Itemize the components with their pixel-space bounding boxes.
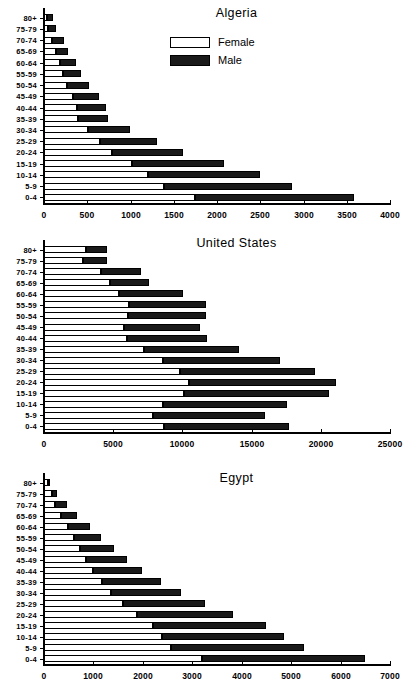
bar-female <box>44 37 52 44</box>
age-group-label: 10-14 <box>16 400 37 409</box>
bar-female <box>44 567 93 574</box>
bar-male <box>184 390 329 397</box>
bar-female <box>44 171 148 178</box>
bar-male <box>153 412 265 419</box>
bar-male <box>56 48 68 55</box>
age-group-label: 75-79 <box>16 490 37 499</box>
bar-female <box>44 115 78 122</box>
bar-female <box>44 279 110 286</box>
legend-item-male: Male <box>170 54 242 66</box>
bar-female <box>44 390 184 397</box>
plot-area-united-states: 050001000015000200002500080+75-7970-7465… <box>0 230 413 465</box>
bar-male <box>52 37 64 44</box>
x-axis-tick-label: 1000 <box>83 671 103 681</box>
age-group-label: 20-24 <box>16 611 37 620</box>
age-group-label: 30-34 <box>16 356 37 365</box>
age-group-label: 25-29 <box>16 600 37 609</box>
x-axis-tick-label: 10000 <box>170 439 195 449</box>
legend-label-female: Female <box>218 36 255 48</box>
bar-female <box>44 589 111 596</box>
bar-male <box>86 556 127 563</box>
age-group-label: 60-64 <box>16 523 37 532</box>
x-axis-tick-label: 4000 <box>380 210 400 220</box>
bar-female <box>44 490 52 497</box>
x-axis-tick-label: 1500 <box>164 210 184 220</box>
age-group-label: 0-4 <box>25 193 37 202</box>
x-axis-tick-label: 5000 <box>281 671 301 681</box>
bar-female <box>44 357 163 364</box>
age-group-label: 30-34 <box>16 126 37 135</box>
x-axis-tick-label: 1000 <box>121 210 141 220</box>
bar-female <box>44 600 123 607</box>
bar-female <box>44 301 129 308</box>
age-group-label: 60-64 <box>16 59 37 68</box>
age-group-label: 45-49 <box>16 323 37 332</box>
bar-female <box>44 93 73 100</box>
bar-male <box>163 401 287 408</box>
chart-panel-egypt: Egypt 0100020003000400050006000700080+75… <box>0 465 413 698</box>
bar-male <box>164 183 292 190</box>
x-axis-tick-label: 4000 <box>232 671 252 681</box>
age-group-label: 70-74 <box>16 501 37 510</box>
bar-female <box>44 149 112 156</box>
chart-panel-algeria: Algeria 05001000150020002500300035004000… <box>0 0 413 230</box>
age-group-label: 70-74 <box>16 36 37 45</box>
age-group-label: 5-9 <box>25 411 37 420</box>
bar-male <box>80 545 114 552</box>
bar-female <box>44 48 56 55</box>
bar-male <box>129 301 206 308</box>
bar-female <box>44 611 137 618</box>
age-group-label: 65-69 <box>16 512 37 521</box>
x-axis-line <box>43 432 391 434</box>
bar-male <box>47 14 53 21</box>
bar-female <box>44 312 128 319</box>
bar-female <box>44 290 119 297</box>
bar-male <box>100 138 157 145</box>
age-group-label: 35-39 <box>16 115 37 124</box>
bar-male <box>123 600 205 607</box>
age-group-label: 55-59 <box>16 70 37 79</box>
bar-male <box>93 567 142 574</box>
bar-male <box>68 523 90 530</box>
age-group-label: 45-49 <box>16 92 37 101</box>
bar-male <box>102 578 161 585</box>
bar-female <box>44 335 127 342</box>
bar-female <box>44 501 55 508</box>
bar-male <box>61 512 77 519</box>
age-group-label: 60-64 <box>16 290 37 299</box>
bar-male <box>144 346 239 353</box>
age-group-label: 55-59 <box>16 534 37 543</box>
age-group-label: 20-24 <box>16 378 37 387</box>
x-axis-tick-label: 20000 <box>309 439 334 449</box>
x-axis-tick-label: 25000 <box>378 439 403 449</box>
bar-male <box>63 70 81 77</box>
bar-female <box>44 401 163 408</box>
bar-male <box>101 268 141 275</box>
x-axis-tick <box>321 429 322 433</box>
age-group-label: 15-19 <box>16 622 37 631</box>
plot-area-algeria: 0500100015002000250030003500400080+75-79… <box>0 0 413 230</box>
bar-male <box>132 160 224 167</box>
x-axis-tick-label: 3000 <box>294 210 314 220</box>
x-axis-tick <box>390 661 391 665</box>
bar-male <box>202 655 365 662</box>
bar-male <box>60 59 76 66</box>
bar-female <box>44 412 153 419</box>
bar-male <box>119 290 183 297</box>
age-group-label: 75-79 <box>16 25 37 34</box>
age-group-label: 65-69 <box>16 47 37 56</box>
bar-male <box>110 279 149 286</box>
bar-male <box>171 644 304 651</box>
bar-female <box>44 138 100 145</box>
bar-female <box>44 379 189 386</box>
bar-female <box>44 578 102 585</box>
x-axis-tick-label: 500 <box>80 210 95 220</box>
bar-female <box>44 59 60 66</box>
age-group-label: 5-9 <box>25 182 37 191</box>
age-group-label: 40-44 <box>16 334 37 343</box>
bar-female <box>44 523 68 530</box>
bar-female <box>44 534 74 541</box>
bar-male <box>189 379 336 386</box>
bar-female <box>44 423 164 430</box>
bar-male <box>164 423 289 430</box>
